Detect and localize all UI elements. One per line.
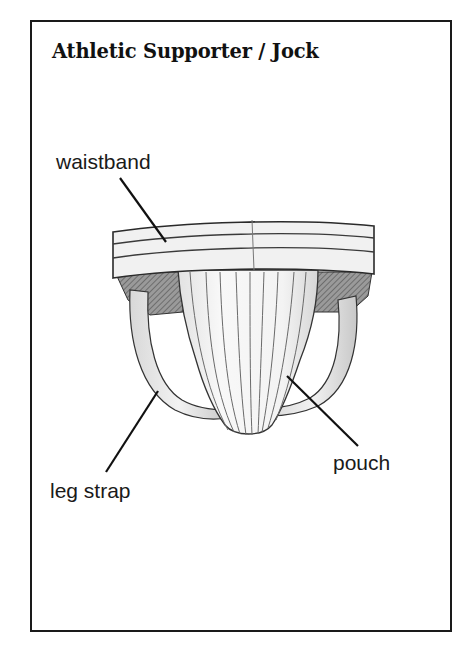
side-panel-left — [115, 272, 185, 315]
leg-strap-pointer — [106, 391, 158, 472]
label-pouch: pouch — [333, 451, 390, 475]
athletic-supporter-illustration — [0, 0, 470, 652]
waistband-shape — [113, 220, 374, 278]
label-waistband: waistband — [56, 150, 151, 174]
label-leg-strap: leg strap — [50, 479, 131, 503]
